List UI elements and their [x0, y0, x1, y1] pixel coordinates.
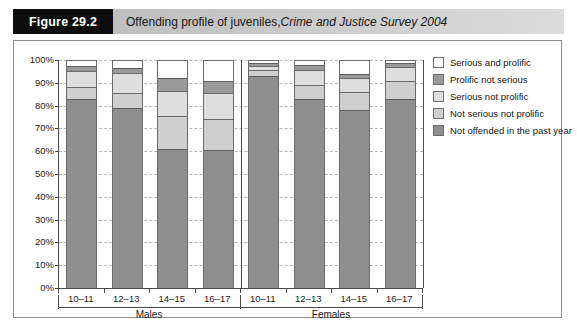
- x-axis-group-label: Females: [240, 309, 422, 320]
- group-separator: [241, 60, 242, 288]
- legend-label: Prolific not serious: [450, 74, 528, 85]
- bar-segment: [204, 81, 233, 94]
- bar-segment: [204, 119, 233, 150]
- y-axis-tick-label: 40%: [14, 191, 54, 202]
- legend-item[interactable]: Prolific not serious: [433, 72, 528, 87]
- bar-segment: [67, 99, 96, 288]
- bar-males-12-13[interactable]: [112, 60, 143, 288]
- bar-females-10-11[interactable]: [248, 60, 279, 288]
- legend-label: Not serious not prolific: [450, 108, 544, 119]
- bar-females-14-15[interactable]: [339, 60, 370, 288]
- bar-females-16-17[interactable]: [385, 60, 416, 288]
- legend-swatch-icon: [433, 57, 444, 68]
- bar-segment: [386, 67, 415, 81]
- bar-segment: [204, 93, 233, 119]
- bar-segment: [340, 78, 369, 92]
- bar-females-12-13[interactable]: [294, 60, 325, 288]
- y-axis-tick-label: 80%: [14, 100, 54, 111]
- bar-segment: [158, 91, 187, 116]
- bar-segment: [158, 78, 187, 91]
- bar-segment: [340, 92, 369, 110]
- bar-males-16-17[interactable]: [203, 60, 234, 288]
- bar-segment: [249, 76, 278, 288]
- bar-segment: [204, 150, 233, 288]
- bar-segment: [158, 149, 187, 288]
- y-axis-tick-label: 0%: [14, 282, 54, 293]
- y-axis-tick-label: 90%: [14, 77, 54, 88]
- legend-swatch-icon: [433, 125, 444, 136]
- y-axis-tick: [55, 220, 59, 221]
- bar-males-14-15[interactable]: [157, 60, 188, 288]
- y-axis-tick-label: 100%: [14, 54, 54, 65]
- bar-segment: [67, 71, 96, 87]
- figure-container: Figure 29.2 Offending profile of juvenil…: [0, 0, 577, 331]
- group-label-divider: [240, 295, 241, 309]
- legend-item[interactable]: Serious and prolific: [433, 55, 531, 70]
- y-axis-tick: [55, 128, 59, 129]
- bar-segment: [204, 60, 233, 81]
- plot-right-border: [423, 60, 424, 288]
- y-axis-tick-label: 30%: [14, 214, 54, 225]
- y-axis-tick-label: 10%: [14, 259, 54, 270]
- bar-segment: [295, 99, 324, 288]
- bar-segment: [340, 110, 369, 288]
- y-axis-tick: [55, 242, 59, 243]
- group-label-divider: [58, 295, 59, 309]
- figure-caption-italic: Crime and Justice Survey 2004: [281, 15, 448, 29]
- group-label-divider: [422, 295, 423, 309]
- y-axis-tick-label: 60%: [14, 145, 54, 156]
- legend-label: Not offended in the past year: [450, 125, 572, 136]
- bar-segment: [386, 81, 415, 99]
- y-axis-labels: 0%10%20%30%40%50%60%70%80%90%100%: [13, 60, 54, 288]
- legend-swatch-icon: [433, 108, 444, 119]
- bar-segment: [113, 60, 142, 68]
- y-axis-tick-label: 20%: [14, 236, 54, 247]
- bar-segment: [67, 87, 96, 98]
- chart-plot-wrapper: 0%10%20%30%40%50%60%70%80%90%100% 10–111…: [14, 41, 563, 319]
- y-axis-tick: [55, 60, 59, 61]
- legend-item[interactable]: Serious not prolific: [433, 89, 528, 104]
- bar-segment: [295, 85, 324, 99]
- figure-number-badge: Figure 29.2: [13, 9, 113, 34]
- x-axis-group-labels: MalesFemales: [58, 309, 423, 323]
- legend-item[interactable]: Not offended in the past year: [433, 123, 572, 138]
- y-axis-tick-label: 70%: [14, 122, 54, 133]
- y-axis-tick: [55, 83, 59, 84]
- chart-frame: 0%10%20%30%40%50%60%70%80%90%100% 10–111…: [13, 40, 562, 318]
- legend-item[interactable]: Not serious not prolific: [433, 106, 544, 121]
- legend-label: Serious not prolific: [450, 91, 528, 102]
- plot-area: [58, 60, 423, 289]
- y-axis-tick-label: 50%: [14, 168, 54, 179]
- bar-males-10-11[interactable]: [66, 60, 97, 288]
- x-axis-group-label: Males: [58, 309, 240, 320]
- legend-label: Serious and prolific: [450, 57, 531, 68]
- bar-segment: [295, 70, 324, 85]
- y-axis-tick: [55, 197, 59, 198]
- legend-swatch-icon: [433, 74, 444, 85]
- bar-segment: [158, 60, 187, 78]
- y-axis-tick: [55, 265, 59, 266]
- bar-segment: [113, 108, 142, 288]
- figure-header-bar: Figure 29.2 Offending profile of juvenil…: [13, 9, 564, 34]
- x-axis-category-label: 16–17: [371, 293, 427, 304]
- figure-caption: Offending profile of juveniles, Crime an…: [126, 9, 447, 34]
- y-axis-tick: [55, 174, 59, 175]
- bar-segment: [158, 116, 187, 149]
- bar-segment: [113, 93, 142, 108]
- bar-segment: [113, 73, 142, 94]
- bar-segment: [386, 99, 415, 288]
- chart-legend: Serious and prolificProlific not serious…: [433, 55, 561, 141]
- bar-segment: [340, 60, 369, 74]
- figure-caption-plain: Offending profile of juveniles,: [126, 15, 281, 29]
- y-axis-tick: [55, 106, 59, 107]
- y-axis-tick: [55, 151, 59, 152]
- legend-swatch-icon: [433, 91, 444, 102]
